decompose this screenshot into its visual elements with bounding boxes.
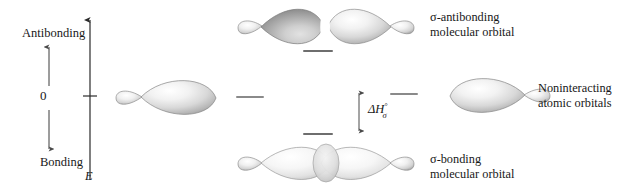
antibonding-direction-arrow [40,40,58,88]
bonding-mo-label-line2: molecular orbital [430,167,514,182]
antibonding-mo-label-line1: σ-antibonding [430,10,514,25]
atomic-orbital-level-right [390,93,418,95]
noninteracting-atomic-label: Noninteracting atomic orbitals [538,81,612,111]
sigma-antibonding-level [303,50,333,52]
bonding-mo-label: σ-bonding molecular orbital [430,152,514,182]
bonding-direction-arrow [40,108,58,156]
axis-top-label: Antibonding [22,26,85,41]
atomic-orbital-right [424,74,554,120]
atomic-orbital-level-left [236,96,264,98]
mo-energy-diagram: Antibonding Bonding 0 E [0,0,628,193]
noninteracting-atomic-label-line1: Noninteracting [538,81,612,96]
antibonding-mo-label: σ-antibonding molecular orbital [430,10,514,40]
sigma-antibonding-orbital [228,2,424,54]
axis-zero-label: 0 [40,88,47,104]
axis-bottom-label: Bonding [40,155,83,170]
sigma-bonding-orbital [228,140,424,190]
noninteracting-atomic-label-line2: atomic orbitals [538,96,612,111]
delta-h-sigma-label: ΔH°σ [368,101,392,119]
energy-axis-line [78,12,102,182]
delta-h-subscript: σ [383,110,387,120]
sigma-bonding-level [303,133,333,135]
atomic-orbital-left [112,76,242,122]
bonding-mo-label-line1: σ-bonding [430,152,514,167]
delta-h-arrow [352,84,366,140]
delta-h-symbol: ΔH [368,102,384,116]
antibonding-mo-label-line2: molecular orbital [430,25,514,40]
